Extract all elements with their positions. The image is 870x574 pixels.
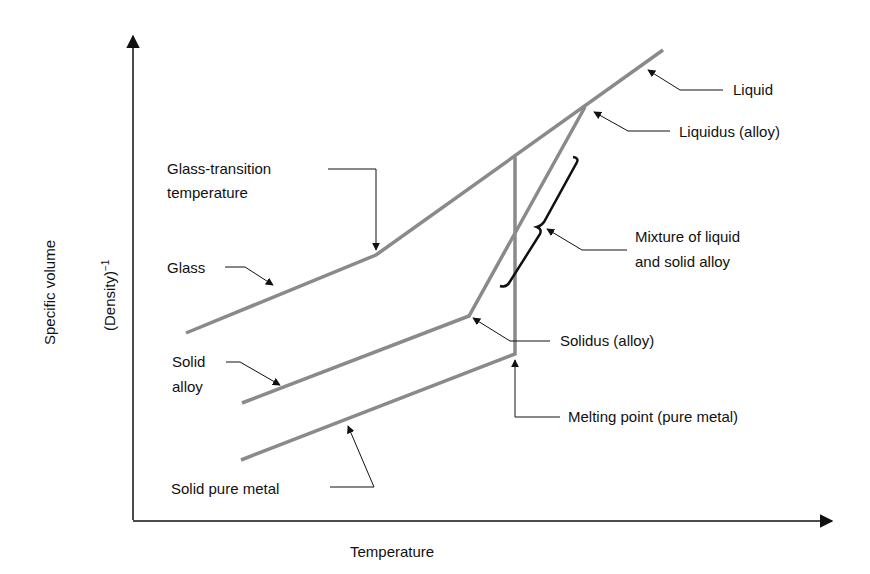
- y-axis-label-density: (Density)−1: [100, 260, 118, 331]
- callout-melting-point: [515, 360, 560, 417]
- callout-glass: [225, 267, 273, 285]
- callout-glass-transition: [328, 169, 376, 250]
- callout-solid-alloy: [226, 362, 280, 385]
- mixture-brace: [500, 157, 577, 287]
- label-mixture-1: Mixture of liquid: [635, 225, 740, 249]
- callout-mixture: [547, 229, 627, 250]
- label-mixture-2: and solid alloy: [635, 250, 730, 274]
- y-axis-label: Specific volume: [41, 240, 58, 345]
- label-solid-alloy-2: alloy: [172, 375, 203, 399]
- callout-solidus: [473, 318, 550, 341]
- label-glass: Glass: [167, 256, 205, 280]
- callout-liquidus: [594, 112, 670, 131]
- glass-liquid-curve: [186, 50, 663, 333]
- label-melting-point: Melting point (pure metal): [568, 405, 738, 429]
- label-liquidus: Liquidus (alloy): [679, 120, 780, 144]
- callout-liquid: [648, 70, 723, 90]
- label-solidus: Solidus (alloy): [560, 329, 654, 353]
- label-liquid: Liquid: [733, 78, 773, 102]
- density-text: (Density): [101, 271, 118, 331]
- solid-alloy-curve: [242, 107, 585, 403]
- label-glass-transition-1: Glass-transition: [167, 157, 271, 181]
- label-solid-pure-metal: Solid pure metal: [171, 477, 279, 501]
- density-exponent: −1: [100, 260, 111, 271]
- x-axis-label: Temperature: [350, 540, 434, 564]
- label-glass-transition-2: temperature: [167, 181, 248, 205]
- label-solid-alloy-1: Solid: [172, 350, 205, 374]
- callout-solid-pure-metal: [330, 426, 374, 487]
